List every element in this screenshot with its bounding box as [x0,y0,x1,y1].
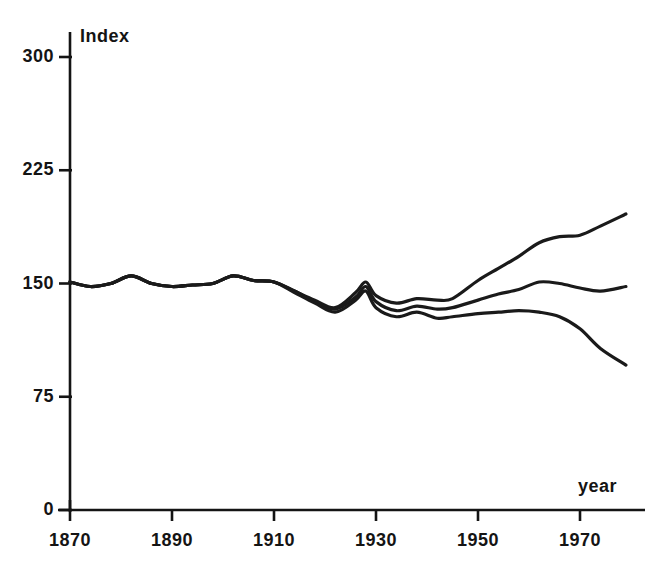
y-axis-title: Index [80,26,130,47]
y-tick-label: 225 [0,159,54,180]
x-tick-label: 1910 [219,530,329,551]
x-axis-title: year [578,476,617,497]
series-line-lower [70,276,626,365]
x-tick-label: 1970 [525,530,635,551]
x-tick-label: 1930 [321,530,431,551]
chart-plot-area [0,0,657,572]
y-tick-label: 75 [0,386,54,407]
series-line-upper [70,214,626,308]
x-tick-label: 1890 [117,530,227,551]
x-tick-label: 1950 [423,530,533,551]
x-tick-label: 1870 [15,530,125,551]
chart-series-group [70,214,626,365]
y-tick-label: 300 [0,46,54,67]
y-tick-label: 0 [0,499,54,520]
y-tick-label: 150 [0,273,54,294]
chart-figure: 075150225300 187018901910193019501970 In… [0,0,657,572]
